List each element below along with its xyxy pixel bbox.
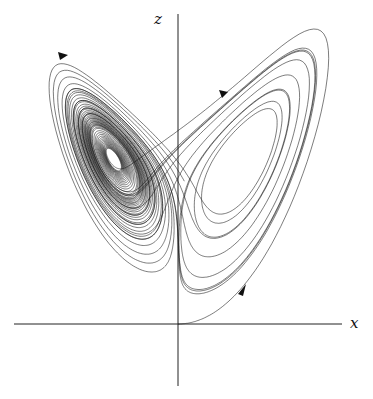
x-axis-label: x [350, 314, 358, 332]
lorenz-diagram [0, 0, 373, 399]
arrow-icon [238, 284, 246, 296]
trajectory [49, 29, 329, 324]
arrow-icon [58, 52, 68, 60]
trajectory-path [49, 29, 329, 324]
arrow-icon [219, 90, 228, 98]
z-axis-label: z [154, 10, 162, 28]
